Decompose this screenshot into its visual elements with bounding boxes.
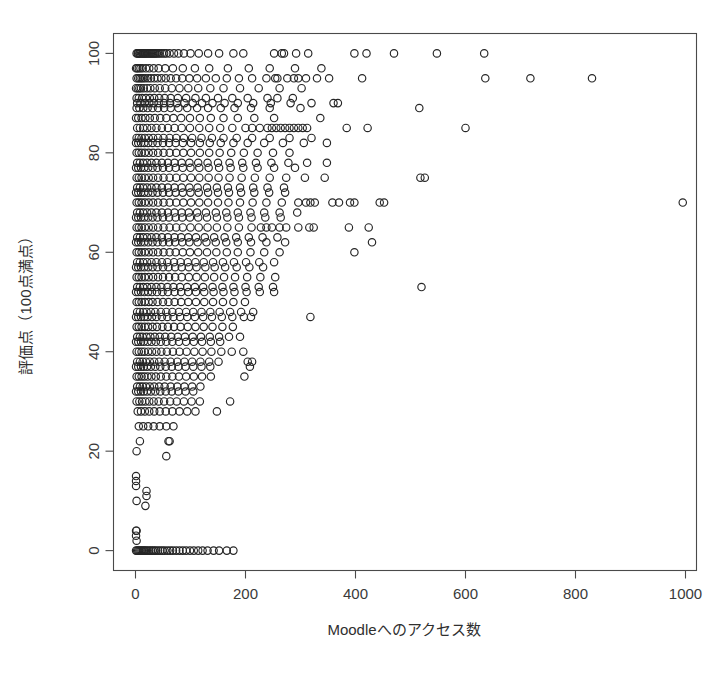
plot-canvas: 02004006008001000 020406080100 Moodleへのア…: [0, 0, 726, 677]
y-tick-label: 60: [85, 244, 102, 261]
x-tick-label: 200: [233, 585, 258, 602]
y-tick-label: 40: [85, 343, 102, 360]
figure-background: [0, 0, 726, 677]
y-tick-label: 100: [85, 41, 102, 66]
x-tick-label: 600: [453, 585, 478, 602]
y-axis-title: 評価点（100点満点）: [17, 229, 34, 374]
y-tick-label: 80: [85, 144, 102, 161]
y-tick-label: 0: [85, 546, 102, 554]
x-axis-title: Moodleへのアクセス数: [327, 621, 480, 638]
scatter-plot-figure: 02004006008001000 020406080100 Moodleへのア…: [0, 0, 726, 677]
x-tick-label: 800: [563, 585, 588, 602]
x-tick-label: 0: [131, 585, 139, 602]
y-tick-label: 20: [85, 443, 102, 460]
x-tick-label: 1000: [669, 585, 702, 602]
x-tick-label: 400: [343, 585, 368, 602]
